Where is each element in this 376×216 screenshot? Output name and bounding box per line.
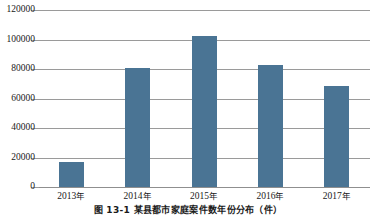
y-tick-label: 120000 [0,5,35,14]
x-tick-label: 2017年 [304,189,370,203]
x-tick-label: 2013年 [38,189,104,203]
bar [125,68,150,187]
y-tick-label: 80000 [0,64,35,73]
x-tick-label: 2014年 [105,189,171,203]
bar [258,65,283,187]
y-tick-label: 100000 [0,35,35,44]
bar [192,36,217,187]
chart-plot-area: 020000400006000080000100000120000 [0,0,376,190]
y-tick-label: 40000 [0,123,35,132]
y-tick-label: 60000 [0,94,35,103]
bar-series [38,0,370,188]
bar [59,162,84,187]
y-tick-label: 20000 [0,153,35,162]
figure-container: 020000400006000080000100000120000 2013年2… [0,0,376,216]
bar [324,86,349,187]
x-axis: 2013年2014年2015年2016年2017年 [38,189,370,205]
x-tick-label: 2015年 [171,189,237,203]
figure-caption: 图 13-1 某县都市家庭案件数年份分布（件） [0,205,376,216]
y-tick-label: 0 [0,182,35,191]
x-tick-label: 2016年 [237,189,303,203]
